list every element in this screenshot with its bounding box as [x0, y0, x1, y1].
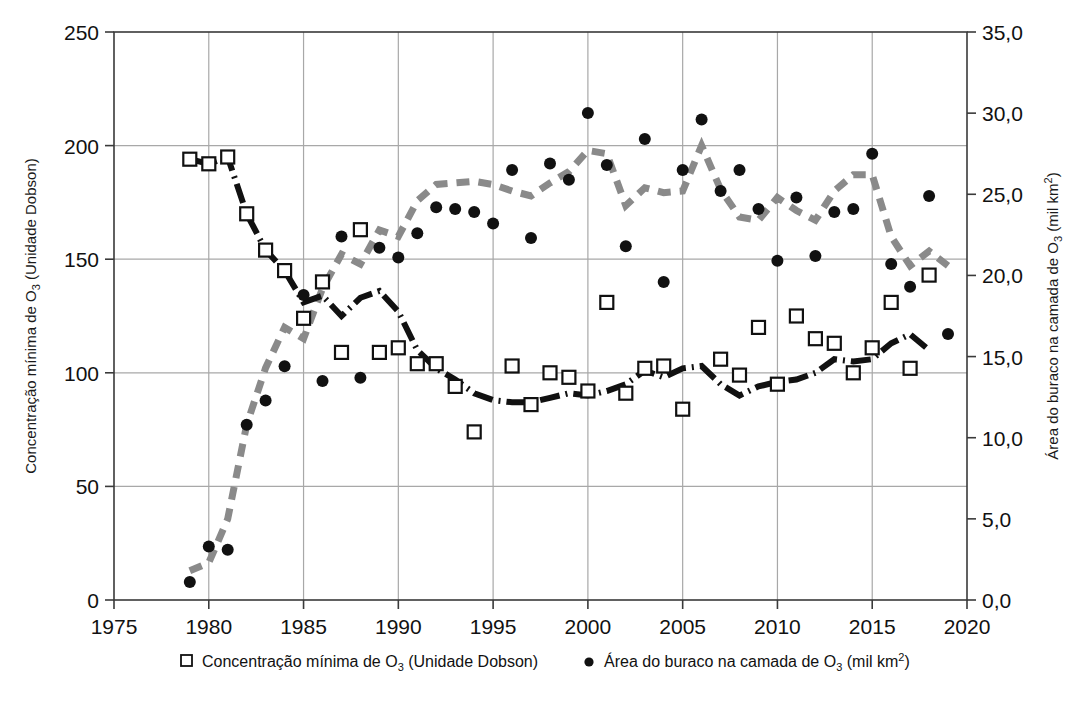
dobson-data-point	[638, 362, 651, 375]
legend-label-dobson: Concentração mínima de O3 (Unidade Dobso…	[202, 653, 538, 673]
left-axis-tick-label: 200	[64, 135, 99, 158]
dobson-data-point	[657, 360, 670, 373]
dobson-data-point	[619, 387, 632, 400]
area-data-point	[241, 419, 253, 431]
dobson-data-point	[430, 357, 443, 370]
plot-area-border	[114, 32, 967, 600]
dobson-data-point	[923, 269, 936, 282]
right-axis-title-text: Área do buraco na camada de O3 (mil km2)	[1042, 172, 1064, 459]
area-data-point	[885, 258, 897, 270]
x-axis-tick-label: 2000	[565, 615, 612, 638]
dobson-data-point	[866, 341, 879, 354]
right-axis-tick-label: 30,0	[982, 102, 1023, 125]
area-data-point	[771, 255, 783, 267]
area-data-point	[734, 164, 746, 176]
legend-marker-open-square	[181, 655, 192, 666]
area-data-point	[279, 360, 291, 372]
legend-marker-filled-circle	[584, 657, 593, 666]
dobson-data-point	[221, 151, 234, 164]
dobson-data-point	[202, 157, 215, 170]
dobson-data-point	[714, 353, 727, 366]
area-data-point	[904, 281, 916, 293]
dobson-data-point	[354, 223, 367, 236]
area-data-point	[184, 576, 196, 588]
dobson-data-point	[752, 321, 765, 334]
right-axis-tick-label: 35,0	[982, 21, 1023, 44]
left-axis-tick-label: 50	[76, 475, 99, 498]
plot-frame	[114, 32, 967, 600]
left-axis-tick-label: 250	[64, 21, 99, 44]
area-data-point	[828, 206, 840, 218]
dobson-data-point	[562, 371, 575, 384]
dobson-data-point	[676, 403, 689, 416]
area-data-point	[411, 227, 423, 239]
area-data-point	[468, 206, 480, 218]
right-axis-tick-label: 25,0	[982, 183, 1023, 206]
chart-container: 050100150200250 0,05,010,015,020,025,030…	[0, 0, 1083, 705]
right-axis-title: Área do buraco na camada de O3 (mil km2)	[1042, 172, 1064, 459]
dobson-data-point	[790, 310, 803, 323]
series-dobson-trend	[190, 157, 929, 402]
ozone-chart: 050100150200250 0,05,010,015,020,025,030…	[0, 0, 1083, 705]
area-data-point	[639, 133, 651, 145]
x-axis-tick-label: 1980	[185, 615, 232, 638]
right-axis-tick-label: 20,0	[982, 264, 1023, 287]
x-axis-tick-label: 2020	[944, 615, 991, 638]
area-data-point	[203, 540, 215, 552]
dobson-data-point	[297, 312, 310, 325]
dobson-data-point	[183, 153, 196, 166]
right-axis-tick-label: 10,0	[982, 427, 1023, 450]
right-axis-tick-label: 15,0	[982, 346, 1023, 369]
dobson-data-point	[316, 275, 329, 288]
area-data-point	[790, 192, 802, 204]
area-data-point	[809, 250, 821, 262]
x-axis-tick-label: 2015	[849, 615, 896, 638]
area-data-point	[942, 328, 954, 340]
area-data-point	[354, 372, 366, 384]
left-axis-ticks: 050100150200250	[64, 21, 114, 612]
area-data-point	[677, 164, 689, 176]
dobson-data-point	[581, 385, 594, 398]
x-axis-ticks: 1975198019851990199520002005201020152020	[91, 600, 991, 638]
legend-label-area: Área do buraco na camada de O3 (mil km2)	[604, 651, 910, 673]
area-data-point	[373, 242, 385, 254]
area-data-point	[715, 185, 727, 197]
area-data-point	[658, 276, 670, 288]
dobson-data-point	[600, 296, 613, 309]
area-data-point	[317, 375, 329, 387]
dobson-data-point	[847, 366, 860, 379]
area-data-point	[260, 394, 272, 406]
left-axis-title: Concentração mínima de O3 (Unidade Dobso…	[22, 158, 42, 473]
area-data-point	[525, 232, 537, 244]
x-axis-tick-label: 1975	[91, 615, 138, 638]
dobson-data-point	[392, 341, 405, 354]
dobson-trend-line	[190, 157, 929, 402]
left-axis-tick-label: 150	[64, 248, 99, 271]
dobson-data-point	[278, 264, 291, 277]
right-axis-tick-label: 5,0	[982, 508, 1011, 531]
x-axis-tick-label: 2010	[754, 615, 801, 638]
area-data-point	[222, 544, 234, 556]
dobson-data-point	[771, 378, 784, 391]
right-axis-tick-label: 0,0	[982, 589, 1011, 612]
area-data-point	[487, 218, 499, 230]
area-data-point	[620, 240, 632, 252]
dobson-data-point	[373, 346, 386, 359]
dobson-data-point	[468, 425, 481, 438]
dobson-data-point	[411, 357, 424, 370]
x-axis-tick-label: 1995	[470, 615, 517, 638]
area-data-point	[847, 203, 859, 215]
dobson-data-point	[240, 207, 253, 220]
dobson-data-point	[544, 366, 557, 379]
x-axis-tick-label: 2005	[659, 615, 706, 638]
area-data-point	[392, 252, 404, 264]
dobson-data-point	[335, 346, 348, 359]
area-data-point	[582, 107, 594, 119]
x-axis-tick-label: 1985	[280, 615, 327, 638]
x-axis-tick-label: 1990	[375, 615, 422, 638]
dobson-data-point	[904, 362, 917, 375]
area-data-point	[563, 174, 575, 186]
area-data-point	[696, 114, 708, 126]
area-data-point	[866, 148, 878, 160]
grid-lines	[114, 32, 967, 600]
